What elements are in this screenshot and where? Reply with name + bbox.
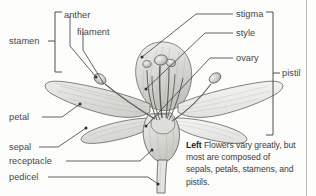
petal-right-upper xyxy=(178,81,283,117)
leader-receptacle xyxy=(66,150,152,161)
label-filament: filament xyxy=(77,27,110,37)
label-anther: anther xyxy=(64,10,90,20)
label-receptacle: receptacle xyxy=(9,156,52,166)
label-stamen: stamen xyxy=(9,36,39,46)
petal-left-upper xyxy=(45,81,150,117)
label-style: style xyxy=(236,28,255,38)
petal-back xyxy=(136,42,192,111)
leader-petal xyxy=(42,104,80,117)
leader-sepal xyxy=(39,128,86,147)
bracket-pistil xyxy=(266,12,280,135)
caption-lead: Left xyxy=(186,140,202,150)
label-pedicel: pedicel xyxy=(9,172,38,182)
page-edge-rule xyxy=(306,0,307,196)
leader-pedicel xyxy=(48,177,158,184)
label-ovary: ovary xyxy=(236,53,259,63)
pedicel xyxy=(157,160,167,193)
figure-caption: Left Flowers vary greatly, but most are … xyxy=(186,139,298,188)
label-sepal: sepal xyxy=(9,142,31,152)
bracket-stamen xyxy=(48,12,62,72)
label-stigma: stigma xyxy=(236,9,263,19)
label-petal: petal xyxy=(9,112,29,122)
label-pistil: pistil xyxy=(282,68,301,78)
